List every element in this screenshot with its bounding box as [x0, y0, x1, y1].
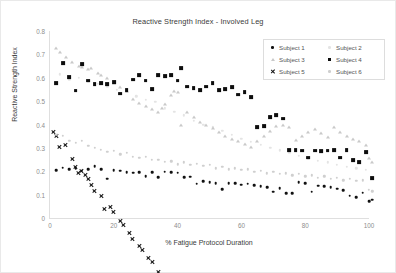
- data-point: [294, 139, 298, 142]
- data-point: [310, 174, 312, 176]
- legend-marker-icon: [326, 44, 333, 51]
- data-point: [121, 223, 126, 228]
- data-point: [157, 73, 161, 77]
- data-point: [234, 167, 236, 169]
- legend-item[interactable]: Subject 1: [269, 44, 324, 51]
- data-point: [163, 102, 167, 105]
- data-point: [259, 170, 261, 172]
- data-point: [93, 165, 96, 168]
- legend-marker-icon: [269, 56, 276, 63]
- data-point: [291, 174, 293, 176]
- data-point: [361, 179, 363, 181]
- data-point: [287, 126, 291, 129]
- data-point: [336, 164, 338, 166]
- data-point: [371, 198, 374, 201]
- legend-label: Subject 2: [336, 44, 362, 51]
- chart-title: Reactive Strength Index - Involved Leg: [1, 17, 395, 26]
- data-point: [137, 73, 141, 77]
- legend-item[interactable]: Subject 4: [326, 56, 381, 63]
- data-point: [349, 194, 352, 197]
- data-point: [202, 165, 204, 167]
- x-axis-tick: 100: [364, 222, 375, 229]
- data-point: [250, 141, 252, 143]
- data-point: [253, 171, 255, 173]
- data-point: [86, 79, 90, 83]
- data-point: [249, 95, 253, 99]
- legend-item[interactable]: Subject 6: [326, 68, 381, 75]
- data-point: [160, 107, 164, 110]
- data-point: [150, 260, 155, 265]
- data-point: [106, 82, 110, 86]
- data-point: [355, 196, 358, 199]
- data-point: [259, 144, 261, 146]
- data-point: [100, 168, 103, 171]
- data-point: [298, 173, 300, 175]
- data-point: [281, 123, 285, 126]
- data-point: [345, 165, 347, 167]
- data-point: [291, 192, 294, 195]
- data-point: [54, 81, 58, 85]
- data-point: [156, 111, 160, 114]
- data-point: [224, 87, 228, 91]
- data-point: [176, 172, 179, 175]
- data-point: [118, 86, 122, 89]
- data-point: [68, 168, 71, 171]
- data-point: [223, 134, 227, 137]
- data-point: [275, 113, 279, 117]
- data-point: [67, 75, 71, 79]
- data-point: [100, 149, 102, 151]
- data-point: [127, 230, 132, 235]
- data-point: [269, 147, 271, 149]
- data-point: [240, 184, 243, 187]
- x-axis-tick: 80: [302, 222, 309, 229]
- data-point: [105, 76, 109, 79]
- chart-legend: Subject 1Subject 2Subject 3Subject 4Subj…: [263, 39, 385, 80]
- x-axis-tick: 60: [238, 222, 245, 229]
- data-point: [131, 97, 135, 100]
- data-point: [249, 145, 253, 148]
- data-point: [135, 95, 137, 97]
- data-point: [140, 248, 145, 253]
- data-point: [202, 180, 205, 183]
- legend-item[interactable]: Subject 2: [326, 44, 381, 51]
- data-point: [58, 73, 60, 75]
- data-point: [370, 176, 374, 180]
- data-point: [156, 270, 161, 273]
- data-point: [355, 167, 357, 169]
- x-axis-tick: 20: [110, 222, 117, 229]
- data-point: [278, 149, 280, 151]
- data-point: [183, 161, 185, 163]
- data-point: [198, 120, 202, 123]
- data-point: [349, 178, 351, 180]
- data-point: [319, 132, 323, 135]
- data-point: [150, 87, 154, 91]
- legend-item[interactable]: Subject 3: [269, 56, 324, 63]
- data-point: [157, 176, 160, 179]
- data-point: [131, 78, 135, 82]
- data-point: [176, 163, 178, 165]
- data-point: [138, 156, 140, 158]
- data-point: [192, 86, 196, 90]
- data-point: [93, 82, 97, 86]
- data-point: [332, 148, 336, 152]
- data-point: [189, 176, 192, 179]
- data-point: [247, 168, 249, 170]
- y-axis-tick: 0.1: [36, 191, 45, 198]
- data-point: [330, 178, 332, 180]
- legend-item[interactable]: Subject 5: [269, 68, 324, 75]
- data-point: [306, 130, 310, 133]
- data-point: [78, 77, 80, 79]
- data-point: [329, 186, 332, 189]
- y-axis-tick: 0.5: [36, 98, 45, 105]
- data-point: [144, 99, 146, 101]
- data-point: [113, 169, 116, 172]
- data-point: [169, 73, 173, 77]
- data-point: [255, 139, 259, 142]
- data-point: [119, 169, 122, 172]
- data-point: [106, 86, 108, 88]
- legend-label: Subject 6: [336, 68, 362, 75]
- data-point: [317, 160, 319, 162]
- data-point: [336, 187, 339, 190]
- data-point: [268, 130, 272, 133]
- data-point: [221, 188, 224, 191]
